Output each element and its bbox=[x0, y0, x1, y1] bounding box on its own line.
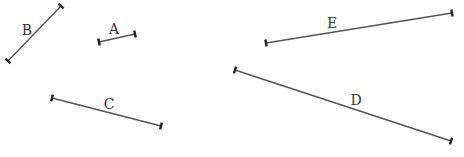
segments-drawing bbox=[0, 0, 464, 157]
endpoint-tick-icon bbox=[98, 39, 100, 46]
endpoint-tick-icon bbox=[134, 31, 136, 38]
label-segment-d: D bbox=[350, 93, 361, 107]
endpoint-tick-icon bbox=[234, 67, 236, 74]
label-segment-e: E bbox=[327, 16, 337, 30]
segments-diagram: A B C D E bbox=[0, 0, 464, 157]
segment-d bbox=[234, 67, 452, 145]
label-segment-b: B bbox=[22, 23, 32, 37]
endpoint-tick-icon bbox=[265, 40, 266, 47]
label-segment-a: A bbox=[109, 22, 119, 36]
endpoint-tick-icon bbox=[51, 95, 53, 102]
segment-b bbox=[5, 4, 63, 64]
segment-e bbox=[265, 10, 452, 47]
endpoint-tick-icon bbox=[450, 138, 452, 145]
segment-line bbox=[266, 13, 452, 43]
label-segment-c: C bbox=[104, 97, 115, 111]
endpoint-tick-icon bbox=[451, 10, 452, 17]
segment-line bbox=[8, 6, 61, 61]
segment-line bbox=[235, 70, 451, 141]
endpoint-tick-icon bbox=[160, 123, 162, 130]
